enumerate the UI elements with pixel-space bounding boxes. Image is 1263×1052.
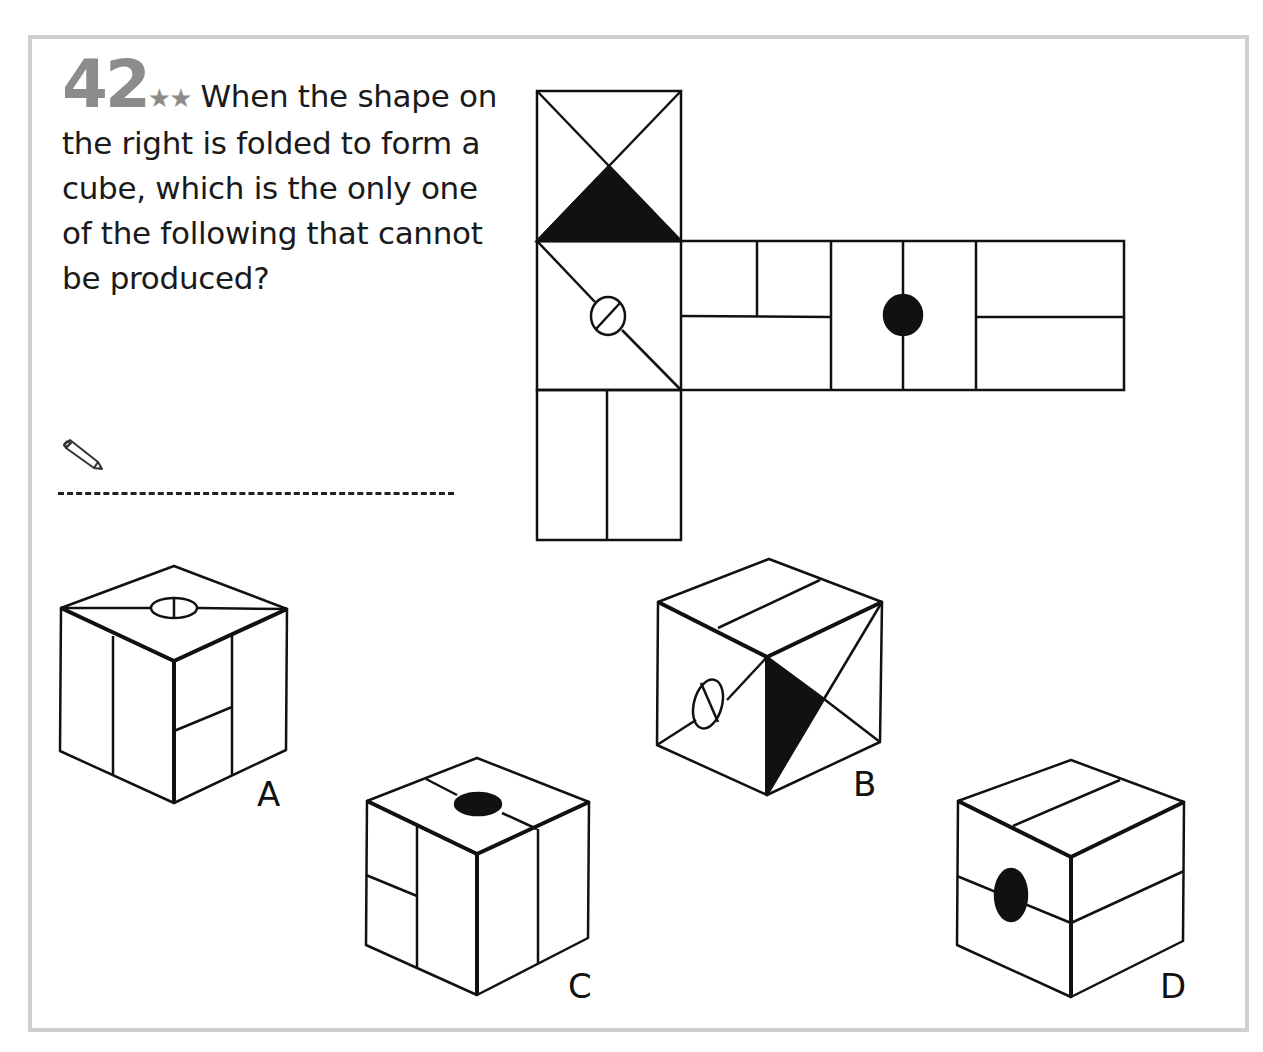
cube-option-a[interactable] xyxy=(60,566,287,803)
option-label-d[interactable]: D xyxy=(1160,966,1186,1006)
cube-option-c[interactable] xyxy=(366,758,589,995)
cube-option-b[interactable] xyxy=(657,559,882,795)
cube-option-d[interactable] xyxy=(957,760,1184,997)
cube-net xyxy=(537,91,1124,540)
puzzle-diagrams xyxy=(0,0,1263,1052)
option-label-a[interactable]: A xyxy=(257,774,280,814)
option-label-c[interactable]: C xyxy=(568,966,592,1006)
option-label-b[interactable]: B xyxy=(853,764,876,804)
